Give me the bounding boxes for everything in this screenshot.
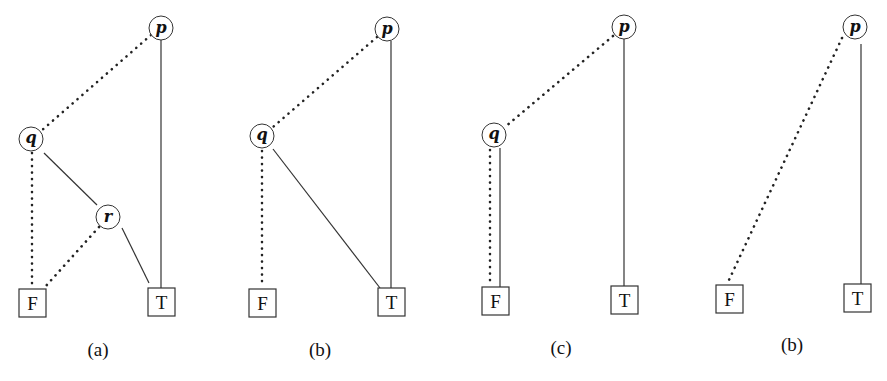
terminal-false: F	[19, 289, 46, 317]
terminal-true: T	[611, 286, 638, 314]
terminal-true: T	[148, 288, 175, 316]
edge-p-q-dotted	[273, 37, 377, 127]
node-q: q	[482, 123, 506, 147]
node-label: q	[488, 124, 499, 143]
edge-r-T-solid	[122, 228, 149, 283]
terminal-true: T	[378, 288, 405, 316]
edge-p-q-dotted	[41, 35, 151, 131]
terminal-label: F	[27, 293, 38, 314]
node-q: q	[250, 124, 274, 148]
edge-r-F-dotted	[45, 227, 99, 287]
node-label: p	[155, 18, 166, 37]
panel-caption: (b)	[781, 334, 803, 356]
panel-b: p q F T (b)	[249, 17, 405, 361]
edge-q-r-solid	[44, 153, 97, 205]
node-q: q	[19, 127, 43, 151]
node-r: r	[96, 205, 120, 229]
panel-caption: (c)	[550, 337, 571, 359]
panel-a: p q r F T (a)	[19, 16, 175, 361]
bdd-figure: p q r F T (a) p q	[0, 0, 887, 381]
edge-p-F-dotted	[729, 38, 842, 280]
node-p: p	[375, 17, 399, 41]
panel-caption: (a)	[87, 339, 108, 361]
terminal-label: F	[490, 291, 501, 312]
terminal-label: T	[852, 288, 864, 309]
node-label: p	[381, 19, 392, 38]
terminal-label: F	[257, 293, 268, 314]
node-p: p	[149, 16, 173, 40]
edge-q-T-solid	[273, 149, 380, 288]
node-p: p	[612, 15, 636, 39]
terminal-false: F	[482, 287, 509, 315]
panel-c: p q F T (c)	[482, 15, 638, 359]
node-label: p	[849, 17, 860, 36]
panel-caption: (b)	[309, 339, 331, 361]
terminal-label: F	[724, 289, 735, 310]
panel-d: p F T (b)	[716, 15, 871, 356]
node-label: q	[25, 128, 36, 147]
terminal-false: F	[716, 285, 743, 313]
terminal-label: T	[386, 292, 398, 313]
terminal-false: F	[249, 289, 276, 317]
terminal-true: T	[844, 284, 871, 312]
terminal-label: T	[156, 292, 168, 313]
node-label: p	[618, 17, 629, 36]
node-label: q	[256, 125, 267, 144]
terminal-label: T	[619, 290, 631, 311]
node-p: p	[843, 15, 867, 39]
edge-p-q-dotted	[505, 36, 613, 127]
